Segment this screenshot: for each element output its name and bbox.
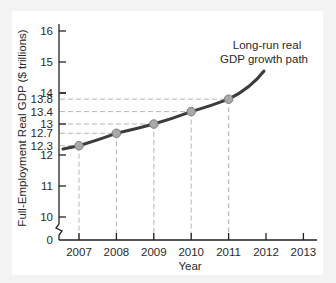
y-tick-label: 14	[40, 87, 53, 99]
y-tick-label: 11	[41, 180, 53, 192]
data-point	[224, 95, 233, 104]
x-tick-label: 2008	[104, 246, 130, 258]
dashed-guide-lines	[60, 93, 229, 240]
y-tick-label: 10	[40, 211, 53, 223]
data-point	[75, 141, 84, 150]
y-tick-label: 0	[47, 234, 53, 246]
x-tick-label: 2009	[141, 246, 167, 258]
x-axis-title: Year	[178, 260, 201, 272]
x-axis-ticks: 2007200820092010201120122013	[66, 233, 316, 258]
y-tick-label: 12.3	[31, 140, 53, 152]
y-axis-title: Full-Employment Real GDP ($ trillions)	[16, 29, 28, 226]
gdp-growth-chart: 010111212.312.71313.413.8141516 20072008…	[0, 0, 336, 283]
x-tick-label: 2013	[291, 246, 317, 258]
y-axis-ticks: 010111212.312.71313.413.8141516	[31, 25, 66, 246]
y-tick-label: 13	[40, 118, 53, 130]
y-tick-label: 15	[40, 56, 53, 68]
x-tick-label: 2012	[253, 246, 279, 258]
data-point	[187, 107, 196, 116]
y-axis-break	[56, 224, 62, 240]
annotation-line-1: Long-run real	[233, 39, 301, 51]
x-tick-label: 2010	[178, 246, 204, 258]
y-tick-label: 13.4	[31, 106, 54, 118]
data-point	[150, 120, 159, 129]
growth-path-curve	[63, 71, 264, 149]
data-point	[112, 129, 121, 138]
annotation-line-2: GDP growth path	[220, 53, 308, 65]
x-tick-label: 2007	[66, 246, 92, 258]
y-tick-label: 16	[40, 25, 53, 37]
x-tick-label: 2011	[216, 246, 241, 258]
